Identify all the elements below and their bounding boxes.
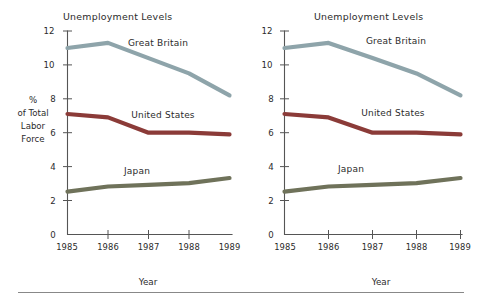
series-label-great-britain: Great Britain [128,38,188,48]
series-label-united-states: United States [361,108,425,118]
x-tick-label: 1987 [138,242,160,252]
y-tick-label: 10 [44,60,55,70]
x-tick-labels-left: 1985 1986 1987 1988 1989 [56,242,240,252]
chart-title-right: Unemployment Levels [314,11,423,22]
series-label-japan: Japan [123,166,150,176]
y-tick-label: 2 [268,196,273,206]
series-line-great-britain [68,43,230,96]
x-tick-label: 1986 [97,242,119,252]
series-line-japan [68,178,230,192]
y-tick-labels-right: 12 10 8 6 4 2 0 [262,26,274,240]
y-axis-label-line: of Total [17,108,48,118]
x-tick-label: 1989 [449,242,471,252]
y-tick-label: 0 [268,230,273,240]
chart-panel-left: Unemployment Levels 12 10 8 6 4 2 0 % of… [0,0,241,292]
y-tick-label: 0 [50,230,55,240]
x-tick-label: 1988 [406,242,428,252]
y-axis-label-line: % [29,95,37,105]
y-tick-label: 6 [268,128,273,138]
y-tick-label: 12 [44,26,55,36]
x-axis-label-left: Year [138,277,158,287]
x-tick-label: 1987 [362,242,384,252]
chart-title-left: Unemployment Levels [63,11,172,22]
y-tick-label: 4 [268,162,273,172]
y-tick-label: 10 [262,60,273,70]
x-tick-label: 1989 [219,242,241,252]
chart-panel-right: Unemployment Levels 12 10 8 6 4 2 0 [241,0,482,292]
y-axis-label-line: Labor [21,121,46,131]
x-tick-label: 1986 [318,242,340,252]
y-tick-label: 2 [50,196,55,206]
series-label-japan: Japan [337,164,364,174]
y-tick-label: 8 [268,94,273,104]
x-tick-label: 1985 [274,242,296,252]
series-line-japan [285,178,461,192]
y-axis-label-left: % of Total Labor Force [17,95,48,144]
series-line-great-britain [285,43,461,96]
y-tick-label: 6 [50,128,55,138]
series-label-great-britain: Great Britain [366,36,426,46]
series-label-united-states: United States [131,110,195,120]
x-tick-labels-right: 1985 1986 1987 1988 1989 [274,242,471,252]
y-tick-labels-left: 12 10 8 6 4 2 0 [44,26,56,240]
y-tick-label: 8 [50,94,55,104]
x-tick-label: 1985 [56,242,78,252]
x-axis-label-right: Year [371,277,391,287]
x-tick-label: 1988 [178,242,200,252]
bottom-divider [18,292,464,293]
y-axis-label-line: Force [21,134,44,144]
figure-container: Unemployment Levels 12 10 8 6 4 2 0 % of… [0,0,482,305]
y-tick-label: 4 [50,162,55,172]
y-tick-label: 12 [262,26,273,36]
